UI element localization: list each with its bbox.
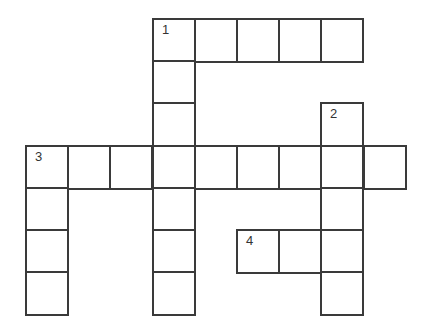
crossword-cell[interactable]: [25, 187, 69, 232]
clue-number: 1: [162, 23, 169, 36]
crossword-cell[interactable]: [320, 18, 364, 63]
crossword-cell[interactable]: [236, 18, 280, 63]
crossword-cell[interactable]: [109, 145, 153, 190]
crossword-cell[interactable]: [278, 229, 322, 274]
crossword-cell[interactable]: [25, 229, 69, 274]
crossword-cell[interactable]: [25, 271, 69, 316]
crossword-cell[interactable]: [152, 229, 196, 274]
crossword-cell[interactable]: 4: [236, 229, 280, 274]
crossword-cell[interactable]: [320, 145, 364, 190]
crossword-grid: 1234: [0, 0, 425, 336]
crossword-cell[interactable]: [278, 18, 322, 63]
crossword-cell[interactable]: [152, 271, 196, 316]
clue-number: 4: [246, 234, 253, 247]
crossword-cell[interactable]: [152, 145, 196, 190]
crossword-cell[interactable]: [67, 145, 111, 190]
crossword-cell[interactable]: [278, 145, 322, 190]
crossword-cell[interactable]: [363, 145, 407, 190]
crossword-cell[interactable]: 3: [25, 145, 69, 190]
crossword-cell[interactable]: [152, 187, 196, 232]
crossword-cell[interactable]: [320, 229, 364, 274]
clue-number: 2: [330, 107, 337, 120]
crossword-cell[interactable]: [236, 145, 280, 190]
crossword-cell[interactable]: [320, 187, 364, 232]
crossword-cell[interactable]: [194, 145, 238, 190]
crossword-cell[interactable]: [152, 102, 196, 147]
crossword-cell[interactable]: [194, 18, 238, 63]
crossword-cell[interactable]: [320, 271, 364, 316]
crossword-cell[interactable]: 1: [152, 18, 196, 63]
crossword-cell[interactable]: 2: [320, 102, 364, 147]
clue-number: 3: [35, 150, 42, 163]
crossword-cell[interactable]: [152, 60, 196, 105]
